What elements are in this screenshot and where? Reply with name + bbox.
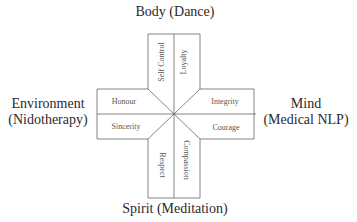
- diagonal-tr: [174, 89, 200, 114]
- diagonal-bl: [148, 114, 174, 139]
- segment-loyalty: Loyalty: [179, 50, 188, 75]
- cross-diagram: Self Control Loyalty Honour Sincerity In…: [0, 0, 357, 222]
- segment-honour: Honour: [112, 97, 137, 106]
- segment-integrity: Integrity: [211, 97, 239, 106]
- diagonal-br: [174, 114, 200, 139]
- segment-compassion: Compassion: [182, 140, 191, 180]
- segment-respect: Respect: [158, 152, 167, 178]
- segment-courage: Courage: [212, 123, 240, 132]
- diagonal-tl: [148, 89, 174, 114]
- cross-outline: [97, 34, 254, 198]
- segment-self-control: Self Control: [157, 42, 166, 82]
- segment-sincerity: Sincerity: [112, 122, 141, 131]
